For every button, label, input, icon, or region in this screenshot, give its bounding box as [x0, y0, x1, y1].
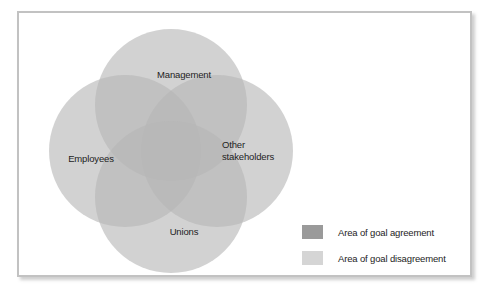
legend: Area of goal agreement Area of goal disa…	[302, 219, 467, 271]
venn-label-employees: Employees	[46, 153, 136, 165]
legend-label-agreement: Area of goal agreement	[338, 227, 434, 238]
venn-label-management: Management	[129, 69, 239, 81]
legend-item-agreement: Area of goal agreement	[302, 219, 467, 245]
venn-label-unions: Unions	[129, 226, 239, 238]
legend-swatch-agreement	[302, 225, 323, 239]
figure-root: Management Employees Other stakeholders …	[0, 0, 499, 303]
legend-swatch-disagreement	[302, 251, 323, 265]
figure-frame: Management Employees Other stakeholders …	[17, 11, 472, 277]
legend-item-disagreement: Area of goal disagreement	[302, 245, 467, 271]
legend-label-disagreement: Area of goal disagreement	[338, 253, 446, 264]
venn-label-other-stakeholders: Other stakeholders	[222, 139, 308, 162]
